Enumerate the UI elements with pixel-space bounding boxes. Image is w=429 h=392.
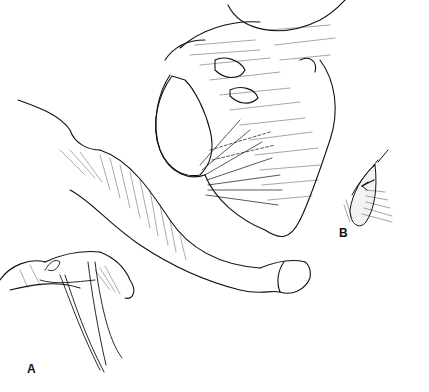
panel-label-a: A [27, 362, 36, 376]
lower-bone-hatching [60, 150, 186, 260]
lower-bone-shaft [18, 100, 310, 293]
inset-b-oval [350, 150, 388, 226]
suture-strands [40, 260, 122, 372]
anatomical-illustration [0, 0, 429, 392]
upper-bone-hatching [190, 25, 335, 200]
lower-left-structure [0, 252, 134, 299]
panel-label-b: B [339, 226, 348, 240]
ligament-fan [200, 120, 282, 205]
